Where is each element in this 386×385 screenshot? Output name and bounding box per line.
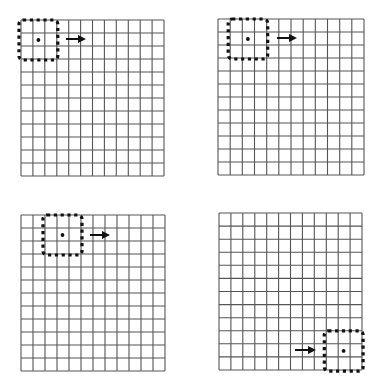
grid: [219, 213, 362, 370]
window-center-dot: [246, 37, 250, 41]
window-center-dot: [37, 38, 41, 42]
window-center-dot: [61, 233, 65, 237]
window-center-dot: [342, 349, 346, 353]
panel-1: [19, 20, 164, 176]
grid: [21, 20, 164, 176]
panel-2: [218, 19, 364, 175]
panel-4: [219, 213, 363, 371]
sliding-window-diagram: [0, 0, 386, 385]
grid: [218, 19, 364, 175]
panel-3: [21, 215, 165, 371]
